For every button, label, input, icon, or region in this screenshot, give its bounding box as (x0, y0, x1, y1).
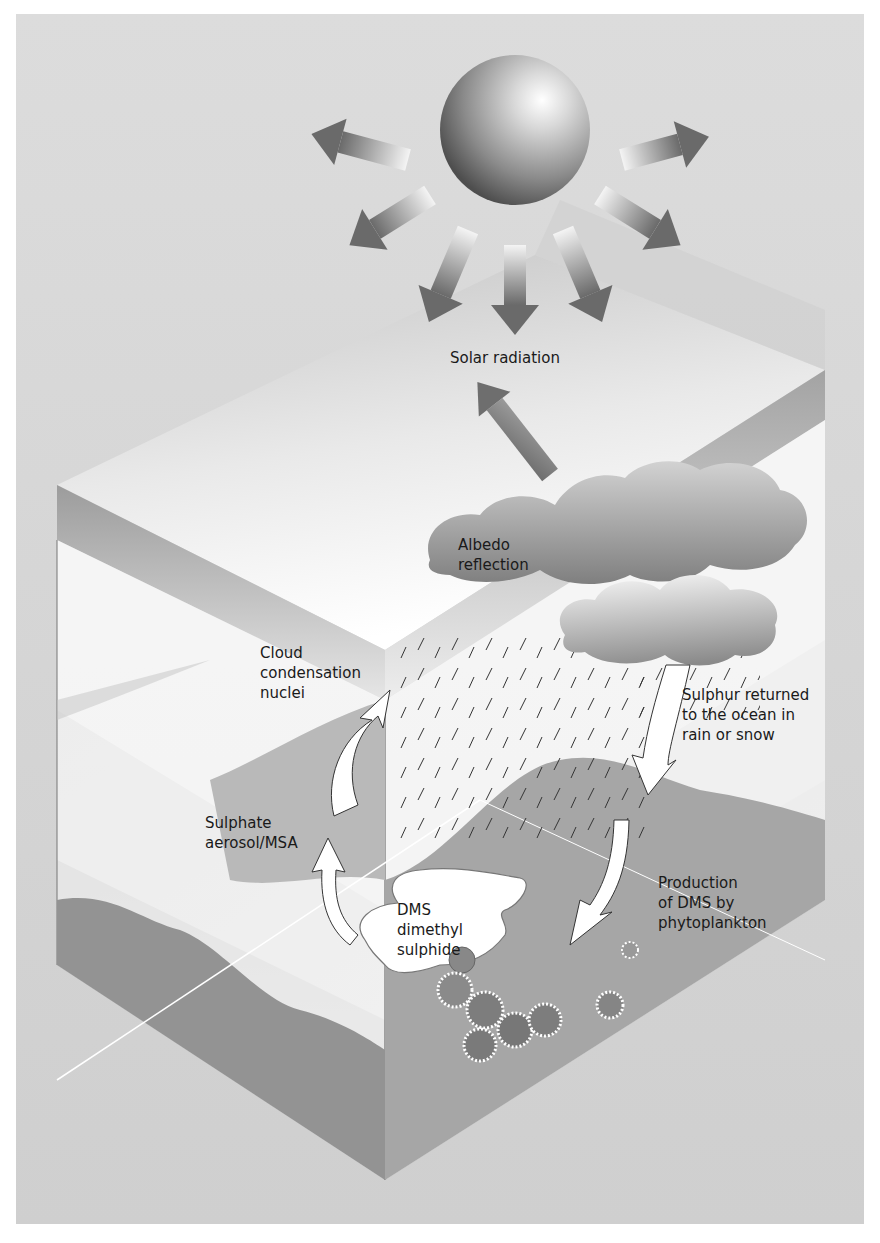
sulphur-cycle-diagram: Solar radiation Albedo reflection Cloud … (0, 0, 880, 1243)
label-solar-radiation: Solar radiation (450, 349, 560, 367)
sun-sphere-icon (440, 55, 590, 205)
